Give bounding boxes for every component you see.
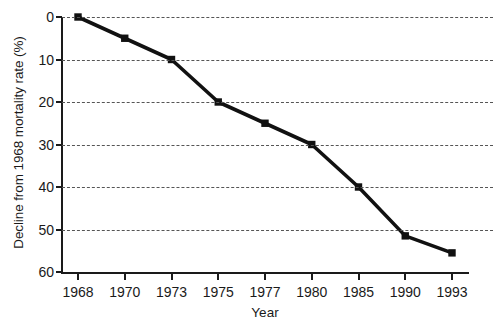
y-tick-mark xyxy=(56,271,62,273)
gridline xyxy=(62,102,493,103)
line-chart: Decline from 1968 mortality rate (%) 010… xyxy=(0,0,493,332)
gridline xyxy=(62,60,493,61)
y-tick-mark xyxy=(56,101,62,103)
x-tick-mark xyxy=(77,274,79,280)
y-tick-label: 30 xyxy=(24,138,54,152)
data-point-marker xyxy=(448,249,455,256)
y-tick-mark xyxy=(56,144,62,146)
gridline xyxy=(62,187,493,188)
x-axis-tick-labels: 196819701973197519771980198519901993 xyxy=(62,284,468,304)
x-tick-mark xyxy=(404,274,406,280)
y-axis-tick-labels: 0102030405060 xyxy=(24,0,54,332)
x-tick-mark xyxy=(358,274,360,280)
data-line xyxy=(78,17,452,253)
y-tick-mark xyxy=(56,229,62,231)
y-tick-mark xyxy=(56,16,62,18)
y-tick-mark xyxy=(56,59,62,61)
x-tick-mark xyxy=(311,274,313,280)
x-tick-mark xyxy=(264,274,266,280)
y-tick-label: 20 xyxy=(24,95,54,109)
plot-area xyxy=(62,17,468,272)
y-tick-label: 60 xyxy=(24,265,54,279)
gridline xyxy=(62,145,493,146)
y-tick-label: 40 xyxy=(24,180,54,194)
data-point-marker xyxy=(121,35,128,42)
x-tick-mark xyxy=(124,274,126,280)
x-tick-mark xyxy=(171,274,173,280)
x-axis-title: Year xyxy=(62,305,468,320)
y-tick-label: 10 xyxy=(24,53,54,67)
gridline xyxy=(62,17,493,18)
y-tick-label: 50 xyxy=(24,223,54,237)
y-tick-mark xyxy=(56,186,62,188)
data-point-marker xyxy=(402,232,409,239)
x-tick-label: 1993 xyxy=(417,284,487,300)
data-point-marker xyxy=(261,120,268,127)
gridline xyxy=(62,230,493,231)
x-tick-mark xyxy=(451,274,453,280)
y-tick-label: 0 xyxy=(24,10,54,24)
x-tick-mark xyxy=(217,274,219,280)
